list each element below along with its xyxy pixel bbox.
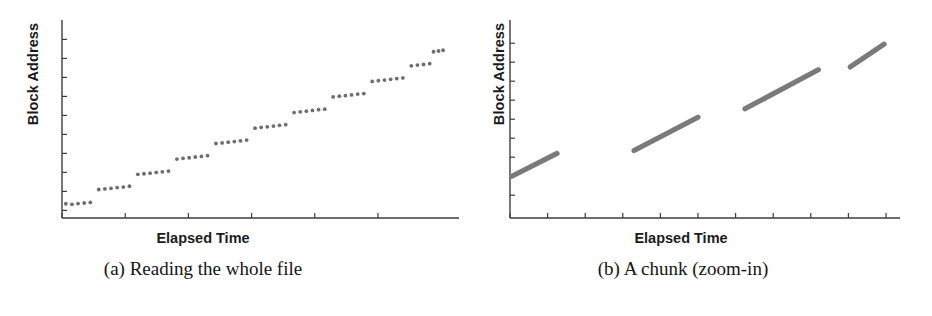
data-point-0-13 [148,171,152,175]
data-point-0-11 [136,172,140,176]
data-point-0-12 [142,172,146,176]
data-point-0-49 [383,78,387,82]
data-point-0-34 [284,123,288,127]
data-point-0-23 [214,142,218,146]
data-point-0-0 [64,202,68,206]
data-point-0-15 [160,170,164,174]
data-point-0-28 [245,138,249,142]
data-point-0-56 [428,62,432,66]
data-point-0-52 [401,76,405,80]
data-point-0-54 [416,63,420,67]
chart-b [466,0,932,240]
data-point-0-44 [350,93,354,97]
data-point-0-24 [220,141,224,145]
data-point-0-3 [82,201,86,205]
data-point-0-59 [441,48,445,52]
data-point-0-32 [272,124,276,128]
plot-area-a [0,0,466,240]
data-point-0-45 [356,92,360,96]
data-point-0-9 [121,185,125,189]
data-point-0-14 [154,171,158,175]
data-point-0-19 [187,156,191,160]
data-point-0-50 [389,77,393,81]
figure-two-panel-scatter: Block Address Elapsed Time (a) Reading t… [0,0,932,316]
data-point-0-39 [317,108,321,112]
data-point-0-41 [331,95,335,99]
data-point-0-47 [370,79,374,83]
caption-a: (a) Reading the whole file [0,258,436,280]
y-axis-label-a: Block Address [25,0,45,154]
data-point-0-53 [409,64,413,68]
data-point-0-58 [437,49,441,53]
y-axis-label-b: Block Address [491,0,511,154]
data-point-0-37 [304,109,308,113]
data-point-0-42 [337,94,341,98]
data-point-0-7 [109,186,113,190]
data-point-0-6 [103,187,107,191]
data-segment-1 [634,117,698,150]
plot-area-b [466,0,932,240]
data-point-0-51 [395,77,399,81]
data-point-0-36 [298,110,302,114]
data-point-0-30 [259,125,263,129]
data-segment-2 [745,70,818,109]
panel-a: Block Address Elapsed Time (a) Reading t… [0,0,466,316]
data-point-0-20 [193,155,197,159]
data-point-0-21 [200,155,204,159]
data-point-0-29 [253,126,257,130]
data-point-0-1 [70,202,74,206]
data-point-0-43 [344,94,348,98]
data-point-0-8 [115,186,119,190]
data-point-0-2 [76,202,80,206]
data-point-0-10 [128,184,132,188]
data-point-0-57 [432,50,436,54]
panel-b: Block Address Elapsed Time (b) A chunk (… [466,0,932,316]
data-point-0-4 [88,201,92,205]
data-point-0-55 [422,63,426,67]
data-point-0-46 [362,92,366,96]
data-point-0-22 [206,154,210,158]
data-point-0-38 [311,109,315,113]
chart-a [0,0,466,240]
data-point-0-18 [181,156,185,160]
x-axis-label-b: Elapsed Time [448,230,914,246]
data-point-0-25 [226,140,230,144]
data-point-0-33 [278,123,282,127]
data-point-0-27 [239,139,243,143]
data-point-0-40 [323,107,327,111]
data-point-0-31 [265,125,269,129]
x-axis-label-a: Elapsed Time [0,230,436,246]
data-point-0-5 [97,188,101,192]
caption-b: (b) A chunk (zoom-in) [450,258,916,280]
data-segment-0 [512,153,557,176]
data-point-0-48 [376,79,380,83]
data-point-0-26 [232,140,236,144]
data-segment-3 [850,44,884,67]
data-point-0-17 [175,157,179,161]
data-point-0-16 [167,169,171,173]
data-point-0-35 [292,111,296,115]
